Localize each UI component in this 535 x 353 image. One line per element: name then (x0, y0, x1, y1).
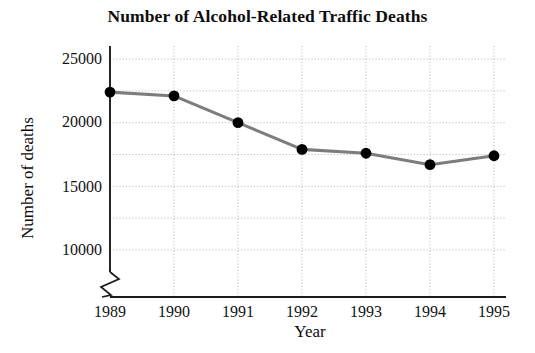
data-point-markers (105, 87, 500, 170)
axis-lines (110, 46, 506, 297)
y-axis-break-icon (101, 272, 119, 297)
horizontal-gridlines (110, 59, 506, 250)
plot-area (0, 0, 535, 353)
vertical-gridlines (174, 46, 494, 297)
chart-figure: Number of Alcohol-Related Traffic Deaths… (0, 0, 535, 353)
